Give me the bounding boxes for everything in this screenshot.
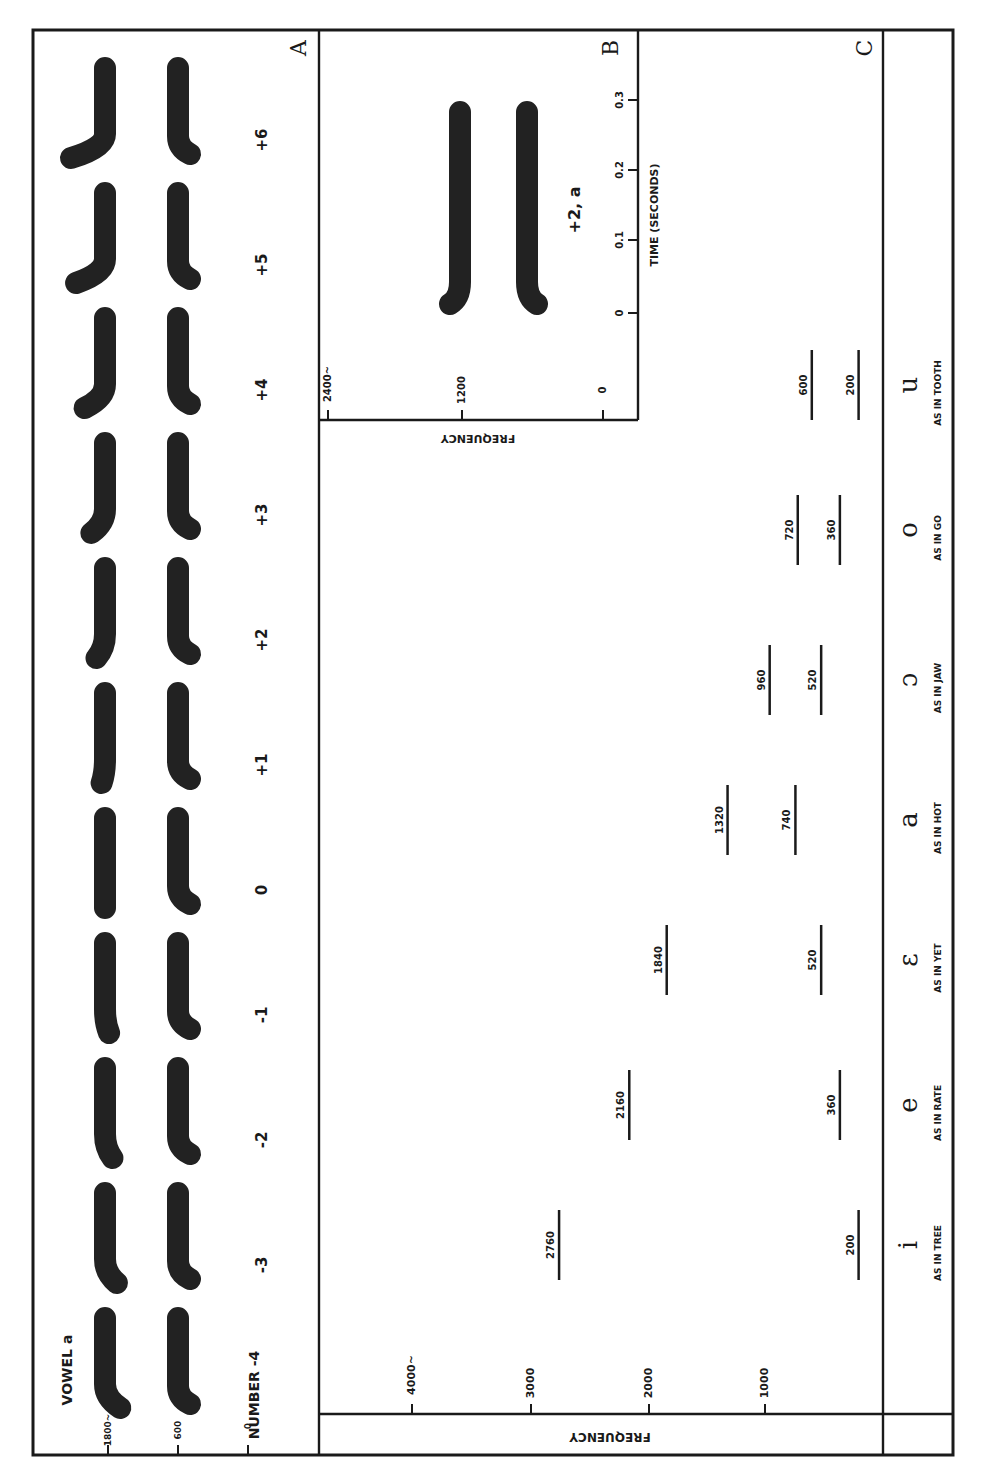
pattern-number-label: -3 <box>253 1257 271 1274</box>
formant-2-bar <box>71 68 105 158</box>
formant-1-bar <box>178 1068 190 1154</box>
panel-b-pattern-label: +2, a <box>565 187 584 234</box>
formant-2-bar <box>105 943 109 1033</box>
formant-value-label: 2160 <box>615 1091 626 1119</box>
panel-a-freq-tick-label: 1800~ <box>103 1414 113 1447</box>
vowel-6: 600200uAS IN TOOTH <box>798 350 943 426</box>
vowel-2: 1840520εAS IN YET <box>653 925 943 995</box>
panel-b-freq-axis-label: FREQUENCY <box>440 432 516 445</box>
figure: AVOWEL aNUMBER -41800~6000-3-2-10+1+2+3+… <box>0 0 989 1483</box>
vowel-symbol: u <box>893 377 923 394</box>
formant-value-label: 200 <box>845 1235 856 1256</box>
panel-b-freq-tick-label: 1200 <box>456 376 467 404</box>
formant-2-bar <box>76 193 105 283</box>
panel-a-title: VOWEL a <box>59 1335 75 1406</box>
vowel-symbol: ε <box>893 953 923 966</box>
panel-a-freq-tick-label: 600 <box>173 1421 183 1440</box>
panel-b-time-tick-label: 0.2 <box>614 161 625 179</box>
panel-c-freq-tick-label: 4000~ <box>405 1355 418 1395</box>
formant-1-bar <box>178 818 190 904</box>
vowel-4: 960520ɔAS IN JAW <box>756 645 943 715</box>
pattern-number-label: +5 <box>253 253 271 276</box>
vowel-example-label: AS IN RATE <box>933 1085 943 1141</box>
panel-c-freq-tick-label: 2000 <box>642 1367 655 1398</box>
formant-2-bar <box>105 1193 117 1283</box>
pattern-+4 <box>85 318 190 408</box>
vowel-example-label: AS IN GO <box>933 515 943 561</box>
panel-a: AVOWEL aNUMBER -41800~6000-3-2-10+1+2+3+… <box>59 39 311 1455</box>
formant-2-bar <box>105 1068 112 1158</box>
formant-value-label: 360 <box>826 520 837 541</box>
pattern-0 <box>105 818 190 908</box>
panel-c-label: C <box>852 40 877 57</box>
panel-c-freq-tick-label: 1000 <box>758 1367 771 1398</box>
panel-a-label: A <box>286 39 311 57</box>
formant-1-bar <box>178 318 190 404</box>
panel-a-freq-tick-label: 0 <box>243 1423 253 1429</box>
vowel-5: 720360oAS IN GO <box>784 495 943 565</box>
pattern-number-label: +1 <box>253 753 271 776</box>
vowel-symbol: i <box>893 1241 923 1249</box>
vowel-symbol: o <box>893 522 923 538</box>
pattern--4 <box>105 1318 190 1408</box>
pattern--1 <box>105 943 190 1033</box>
pattern-+6 <box>71 68 190 158</box>
pattern--2 <box>105 1068 190 1158</box>
panel-b-formant-1 <box>527 112 537 304</box>
formant-2-bar <box>97 568 106 658</box>
formant-2-bar <box>85 318 105 408</box>
formant-1-bar <box>178 68 190 154</box>
pattern-+5 <box>76 193 190 283</box>
panel-b-label: B <box>598 40 623 56</box>
panel-b-freq-tick-label: 2400~ <box>322 366 333 402</box>
formant-1-bar <box>178 943 190 1029</box>
formant-value-label: 360 <box>826 1095 837 1116</box>
panel-c-freq-tick-label: 3000 <box>524 1367 537 1398</box>
panel-b-freq-tick-label: 0 <box>597 386 608 393</box>
panel-b: B2400~12000FREQUENCY00.10.20.3TIME (SECO… <box>322 40 661 445</box>
formant-2-bar <box>105 1318 120 1408</box>
pattern-number-label: -2 <box>253 1132 271 1149</box>
pattern-number-label: -1 <box>253 1007 271 1024</box>
vowel-example-label: AS IN TOOTH <box>933 360 943 426</box>
formant-value-label: 1840 <box>653 946 664 974</box>
formant-2-bar <box>91 443 105 533</box>
formant-1-bar <box>178 1193 190 1279</box>
panel-b-time-tick-label: 0 <box>614 309 625 316</box>
formant-1-bar <box>178 443 190 529</box>
formant-1-bar <box>178 568 190 654</box>
formant-value-label: 960 <box>756 670 767 691</box>
formant-1-bar <box>178 693 190 779</box>
formant-value-label: 600 <box>798 375 809 396</box>
formant-2-bar <box>102 693 105 783</box>
pattern-number-label: +3 <box>253 503 271 526</box>
panel-b-time-tick-label: 0.1 <box>614 231 625 249</box>
pattern-number-label: 0 <box>253 885 271 895</box>
pattern-+1 <box>102 693 190 783</box>
pattern-+2 <box>97 568 191 658</box>
vowel-symbol: a <box>893 812 923 828</box>
formant-value-label: 520 <box>807 950 818 971</box>
pattern-number-label: +4 <box>253 378 271 401</box>
panel-b-formant-2 <box>450 112 460 304</box>
vowel-example-label: AS IN YET <box>933 942 943 992</box>
pattern--3 <box>105 1193 190 1283</box>
formant-value-label: 1320 <box>714 806 725 834</box>
vowel-example-label: AS IN TREE <box>933 1225 943 1281</box>
formant-value-label: 520 <box>807 670 818 691</box>
vowel-symbol: ɔ <box>893 673 923 688</box>
formant-value-label: 200 <box>845 375 856 396</box>
formant-value-label: 720 <box>784 520 795 541</box>
pattern-+3 <box>91 443 190 533</box>
panel-c-freq-axis-label: FREQUENCY <box>569 1430 651 1444</box>
panel-c: C4000~300020001000FREQUENCY2760200iAS IN… <box>405 40 943 1444</box>
panel-b-time-tick-label: 0.3 <box>614 91 625 109</box>
formant-1-bar <box>178 193 190 279</box>
vowel-example-label: AS IN HOT <box>933 801 943 854</box>
vowel-1: 2160360eAS IN RATE <box>615 1070 942 1141</box>
vowel-3: 1320740aAS IN HOT <box>714 785 943 855</box>
formant-value-label: 740 <box>781 810 792 831</box>
pattern-number-label: +2 <box>253 628 271 651</box>
formant-value-label: 2760 <box>545 1231 556 1259</box>
pattern-number-label: +6 <box>253 128 271 151</box>
